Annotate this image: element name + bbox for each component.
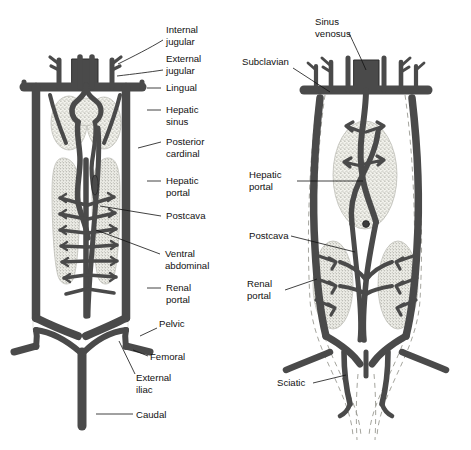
label-sciatic: Sciatic bbox=[277, 377, 305, 388]
diagram-canvas: Internal jugular External jugular Lingua… bbox=[0, 0, 471, 450]
label-external-jugular-line1: External bbox=[166, 53, 201, 64]
label-renal-portal-line2: portal bbox=[166, 294, 190, 305]
label-external-jugular-line2: jugular bbox=[165, 65, 196, 76]
label-hepatic-sinus-line1: Hepatic bbox=[166, 104, 199, 115]
label-lingual: Lingual bbox=[166, 82, 197, 93]
label-renal-portal-line1: Renal bbox=[166, 282, 191, 293]
label-renal-portal-right-line2: portal bbox=[247, 290, 271, 301]
label-internal-jugular-line1: Internal bbox=[166, 24, 198, 35]
renal-vein-l5 bbox=[62, 261, 86, 262]
label-caudal: Caudal bbox=[136, 409, 166, 420]
label-hepatic-portal-right-line2: portal bbox=[249, 181, 273, 192]
label-ventral-abdominal-line1: Ventral bbox=[165, 248, 195, 259]
label-hepatic-portal-line2: portal bbox=[166, 187, 190, 198]
label-pelvic: Pelvic bbox=[159, 318, 185, 329]
label-external-iliac-line1: External bbox=[136, 372, 171, 383]
label-renal-portal-right-line1: Renal bbox=[247, 278, 272, 289]
label-hepatic-portal-right-line1: Hepatic bbox=[249, 169, 282, 180]
label-subclavian: Subclavian bbox=[242, 56, 289, 67]
renal-vein-l4 bbox=[61, 246, 86, 247]
label-sinus-venosus-line1: Sinus bbox=[315, 16, 339, 27]
external-iliac-left-vessel bbox=[36, 330, 37, 347]
comparative-venous-diagram: Internal jugular External jugular Lingua… bbox=[0, 0, 471, 450]
label-postcava-right: Postcava bbox=[249, 230, 289, 241]
postcava-valve-marking bbox=[92, 175, 98, 195]
label-internal-jugular-line2: jugular bbox=[165, 36, 196, 47]
label-hepatic-sinus-line2: sinus bbox=[166, 116, 189, 127]
label-external-iliac-line2: iliac bbox=[136, 384, 153, 395]
label-hepatic-portal-line1: Hepatic bbox=[166, 175, 199, 186]
hepatic-portal-node bbox=[363, 221, 370, 228]
sinus-venosus-block bbox=[354, 60, 379, 88]
external-iliac-right-vessel bbox=[125, 330, 126, 347]
label-posterior-cardinal-line2: cardinal bbox=[166, 148, 200, 159]
label-posterior-cardinal-line1: Posterior bbox=[166, 136, 205, 147]
label-postcava: Postcava bbox=[166, 210, 206, 221]
label-sinus-venosus-line2: venosus bbox=[315, 28, 351, 39]
label-ventral-abdominal-line2: abdominal bbox=[165, 260, 209, 271]
label-femoral: Femoral bbox=[150, 351, 185, 362]
